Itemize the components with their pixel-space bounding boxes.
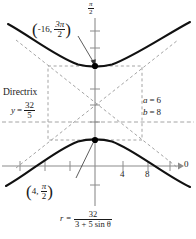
parameter-a: a=6	[143, 96, 161, 105]
x-tick-label-4: 4	[120, 170, 125, 179]
x-tick-label-8: 8	[145, 170, 150, 179]
directrix-numerator: 32	[24, 101, 35, 110]
vertex-dot-upper	[92, 63, 98, 69]
parameter-a-value: 6	[157, 95, 162, 105]
point-upper-theta-denominator: 2	[54, 29, 65, 39]
paren-close: )	[47, 182, 53, 201]
parameter-b: b=8	[143, 108, 161, 117]
leader-line-upper	[78, 36, 94, 63]
directrix-label: Directrix	[3, 88, 37, 98]
polar-equation: r= 32 3 + 5 sin θ	[60, 210, 112, 228]
point-upper-r: -16	[38, 24, 50, 34]
leader-line-lower	[76, 143, 93, 178]
paren-close: )	[65, 20, 71, 39]
axis-top-label-numerator: π	[88, 1, 94, 8]
polar-hyperbola-figure: π 2 (-16, 3π 2 ) (4, π 2 ) Directrix y= …	[0, 0, 196, 239]
parameter-b-value: 8	[157, 107, 162, 117]
vertex-dot-lower	[92, 137, 98, 143]
directrix-equation: y= 32 5	[11, 101, 35, 120]
equation-numerator: 32	[74, 210, 112, 219]
polar-axis-label: 0	[184, 160, 189, 169]
directrix-equals: =	[15, 105, 24, 115]
point-label-upper-vertex: (-16, 3π 2 )	[32, 20, 71, 39]
parameter-b-equals: =	[148, 107, 157, 117]
parameter-a-symbol: a	[143, 95, 148, 105]
equation-equals: =	[63, 213, 74, 223]
vertical-axis-label: π 2	[88, 1, 94, 16]
parameter-b-symbol: b	[143, 107, 148, 117]
point-upper-theta-numerator: 3π	[54, 20, 65, 29]
directrix-denominator: 5	[24, 110, 35, 120]
parameter-a-equals: =	[148, 95, 157, 105]
axis-top-label-denominator: 2	[88, 8, 94, 16]
equation-denominator: 3 + 5 sin θ	[74, 219, 112, 229]
point-label-lower-vertex: (4, π 2 )	[26, 182, 53, 201]
